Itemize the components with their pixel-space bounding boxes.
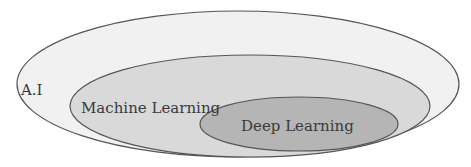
ai-ml-dl-euler-diagram: A.I Machine Learning Deep Learning — [0, 0, 471, 167]
diagram-canvas: A.I Machine Learning Deep Learning — [0, 0, 471, 167]
machine-learning-label: Machine Learning — [81, 99, 221, 117]
ai-label: A.I — [20, 81, 43, 99]
deep-learning-label: Deep Learning — [241, 117, 354, 135]
